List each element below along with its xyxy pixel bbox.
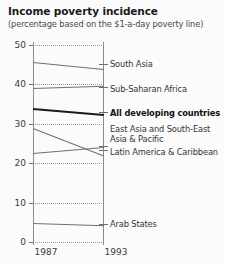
gridline-20	[33, 163, 104, 164]
series-line-arab-states	[33, 223, 104, 226]
leader-east-asia	[99, 150, 108, 151]
series-label-arab-states: Arab States	[110, 219, 157, 229]
gridline-10	[33, 203, 104, 204]
gridline-40	[33, 84, 104, 85]
ytick-label-10: 10	[4, 198, 26, 208]
xtick-label-1987: 1987	[35, 247, 58, 257]
ytick-label-20: 20	[4, 158, 26, 168]
series-line-south-asia	[33, 62, 104, 70]
series-line-sub-saharan-africa	[33, 85, 104, 88]
series-label-latin-america-caribbean: Latin America & Caribbean	[110, 147, 218, 157]
series-label-east-asia-south-east-asia-pacific: East Asia and South-East Asia & Pacific	[110, 125, 222, 144]
ytick-label-30: 30	[4, 119, 26, 129]
gridline-0	[33, 242, 104, 243]
ytick-label-50: 50	[4, 40, 26, 50]
ytick-label-0: 0	[4, 237, 26, 247]
leader-south-asia	[99, 64, 108, 65]
leader-latin-america	[99, 146, 108, 147]
plot-area: 50 40 30 20 10 0	[0, 0, 225, 263]
leader-arab-states	[99, 224, 108, 225]
y-axis-right-1993	[103, 42, 104, 245]
xtick-label-1993: 1993	[105, 247, 128, 257]
gridline-30	[33, 124, 104, 125]
ytick-label-40: 40	[4, 79, 26, 89]
series-label-south-asia: South Asia	[110, 59, 153, 69]
y-axis-left-1987	[33, 42, 34, 245]
leader-sub-saharan-africa	[99, 87, 108, 88]
gridline-50	[33, 45, 104, 46]
chart-container: Income poverty incidence (percentage bas…	[0, 0, 225, 263]
leader-all-developing-countries	[99, 112, 108, 113]
series-label-sub-saharan-africa: Sub-Saharan Africa	[110, 84, 187, 94]
series-line-all-developing-countries	[33, 108, 104, 116]
series-label-all-developing-countries: All developing countries	[110, 108, 220, 118]
